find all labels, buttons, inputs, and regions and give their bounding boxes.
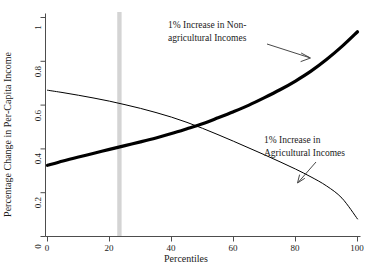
- chart-figure: 0 20 40 60 80 100 0 0.2 0.4 0.6 0.8 1 Pe…: [0, 0, 372, 269]
- x-tick-label-100: 100: [350, 244, 364, 253]
- annotation-agricultural: 1% Increase in Agricultural Incomes: [264, 134, 345, 159]
- x-tick-label-0: 0: [45, 244, 50, 253]
- y-tick-label-1: 1: [34, 18, 43, 38]
- annotation-arrow-ag: [298, 162, 317, 183]
- y-axis-title: Percentage Change in Per-Capita Income: [0, 0, 16, 269]
- y-tick-label-0-8: 0.8: [34, 62, 43, 82]
- y-tick-label-0-4: 0.4: [34, 149, 43, 169]
- x-tick-label-60: 60: [229, 244, 238, 253]
- y-tick-label-0-6: 0.6: [34, 106, 43, 126]
- poverty-line-band: [117, 12, 121, 236]
- annotation-agricultural-line1: 1% Increase in: [264, 134, 345, 147]
- x-tick-label-40: 40: [167, 244, 176, 253]
- x-tick-label-20: 20: [105, 244, 114, 253]
- x-tick-label-80: 80: [291, 244, 300, 253]
- annotation-arrow-nonag: [267, 44, 311, 62]
- annotation-nonagricultural-line2: agricultural Incomes: [168, 32, 246, 45]
- y-tick-label-0-2: 0.2: [34, 193, 43, 213]
- annotation-agricultural-line2: Agricultural Incomes: [264, 147, 345, 160]
- x-axis-ticks: [48, 237, 358, 242]
- annotation-nonagricultural-line1: 1% Increase in Non-: [168, 19, 246, 32]
- x-axis-title: Percentiles: [0, 253, 372, 264]
- annotation-nonagricultural: 1% Increase in Non- agricultural Incomes: [168, 19, 246, 44]
